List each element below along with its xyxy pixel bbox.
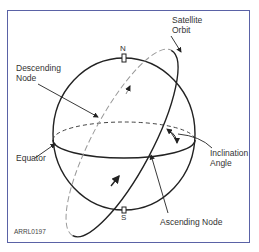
orbit-direction-arrow-back: [126, 86, 130, 94]
satellite-orbit-label: Satellite Orbit: [172, 15, 202, 35]
ascending-node-label: Ascending Node: [160, 217, 222, 227]
satellite-orbit-label-line2: Orbit: [172, 25, 202, 35]
equator-back: [53, 122, 195, 140]
satellite-orbit-leader: [171, 36, 181, 52]
south-label: S: [121, 213, 126, 223]
descending-node-label-line1: Descending: [16, 63, 61, 73]
inclination-angle-label: Inclination Angle: [210, 148, 248, 168]
equator-label: Equator: [16, 153, 46, 163]
orbit-direction-arrow-front: [111, 176, 119, 186]
ascending-node-leader: [151, 155, 168, 213]
satellite-orbit-label-line1: Satellite: [172, 15, 202, 25]
north-label: N: [120, 44, 126, 54]
equator-front: [53, 140, 195, 158]
descending-node-label-line2: Node: [16, 73, 61, 83]
inclination-angle-label-line2: Angle: [210, 158, 248, 168]
orbit-back: [46, 36, 171, 236]
figure-id-label: ARRL0197: [14, 227, 46, 237]
inclination-angle-label-line1: Inclination: [210, 148, 248, 158]
orbit-diagram: [0, 0, 259, 252]
descending-node-label: Descending Node: [16, 63, 61, 83]
north-pole-marker: [122, 54, 126, 62]
descending-node-leader: [38, 84, 98, 117]
